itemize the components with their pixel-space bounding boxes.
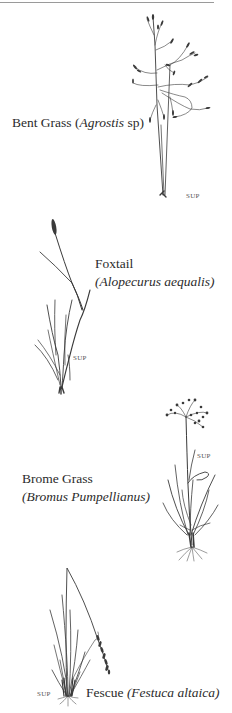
brome-grass-common-name: Brome Grass xyxy=(22,470,150,488)
brome-grass-sup-label: SUP xyxy=(197,452,211,460)
bent-grass-suffix: sp) xyxy=(124,115,144,130)
fescue-common-name: Fescue xyxy=(86,685,124,700)
foxtail-common-name: Foxtail xyxy=(95,255,215,273)
foxtail-label: Foxtail (Alopecurus aequalis) xyxy=(95,255,215,291)
bent-grass-sup-label: SUP xyxy=(186,192,200,200)
brome-grass-label: Brome Grass (Bromus Pumpellianus) xyxy=(22,470,150,506)
brome-grass-scientific-name: (Bromus Pumpellianus) xyxy=(22,488,150,506)
fescue-scientific-name: (Festuca altaica) xyxy=(127,685,220,700)
fescue-sup-label: SUP xyxy=(37,690,51,698)
fescue-label: Fescue (Festuca altaica) xyxy=(86,684,219,702)
brome-grass-illustration-icon xyxy=(155,395,232,560)
bent-grass-common-name: Bent Grass xyxy=(12,115,72,130)
foxtail-illustration-icon xyxy=(30,215,100,395)
foxtail-scientific-name: (Alopecurus aequalis) xyxy=(95,273,215,291)
bent-grass-label: Bent Grass (Agrostis sp) xyxy=(12,114,144,132)
foxtail-sup-label: SUP xyxy=(73,354,87,362)
bent-grass-scientific-name: Agrostis xyxy=(80,115,125,130)
bent-grass-illustration-icon xyxy=(130,5,220,200)
top-rule-divider xyxy=(0,2,214,3)
